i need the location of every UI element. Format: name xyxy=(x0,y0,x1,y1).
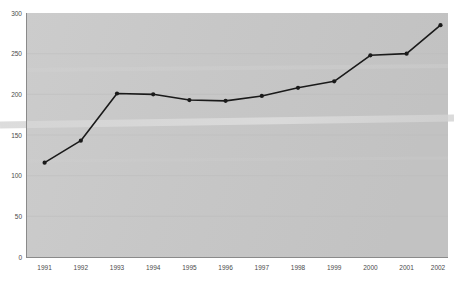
data-point xyxy=(260,94,264,98)
data-point xyxy=(332,79,336,83)
chart-figure: 0 50 100 150 200 250 300 1991 1992 1993 … xyxy=(0,0,454,282)
line-chart-plot: 0 50 100 150 200 250 300 1991 1992 1993 … xyxy=(0,0,454,282)
data-point xyxy=(405,52,409,56)
x-tick-label: 2000 xyxy=(363,264,378,271)
y-tick-label: 50 xyxy=(15,213,23,220)
data-point xyxy=(187,98,191,102)
y-tick-label: 200 xyxy=(11,91,22,98)
data-point xyxy=(151,92,155,96)
y-tick-label: 0 xyxy=(18,254,22,261)
x-axis-tick-labels: 1991 1992 1993 1994 1995 1996 1997 1998 … xyxy=(37,264,445,271)
y-tick-label: 100 xyxy=(11,172,22,179)
y-axis-tick-labels: 0 50 100 150 200 250 300 xyxy=(11,10,22,261)
data-point xyxy=(438,23,442,27)
y-tick-label: 150 xyxy=(11,132,22,139)
data-point xyxy=(224,99,228,103)
data-point xyxy=(296,86,300,90)
x-tick-label: 1996 xyxy=(218,264,233,271)
data-point xyxy=(79,139,83,143)
x-tick-label: 1991 xyxy=(37,264,52,271)
x-tick-label: 2001 xyxy=(399,264,414,271)
x-tick-label: 1995 xyxy=(182,264,197,271)
y-tick-label: 250 xyxy=(11,50,22,57)
x-tick-label: 1992 xyxy=(74,264,89,271)
data-point xyxy=(368,53,372,57)
x-tick-label: 1998 xyxy=(291,264,306,271)
data-point xyxy=(43,161,47,165)
x-tick-label: 2002 xyxy=(431,264,446,271)
x-tick-label: 1993 xyxy=(110,264,125,271)
x-tick-label: 1997 xyxy=(255,264,270,271)
data-point xyxy=(115,91,119,95)
y-tick-label: 300 xyxy=(11,10,22,17)
x-tick-label: 1999 xyxy=(327,264,342,271)
x-tick-label: 1994 xyxy=(146,264,161,271)
